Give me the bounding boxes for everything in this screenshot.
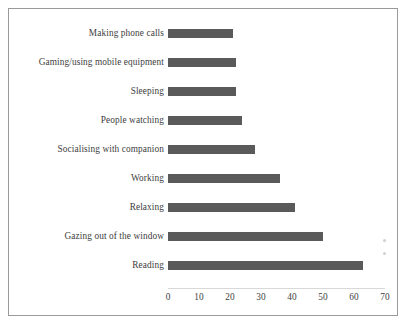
scan-speck: [383, 252, 386, 255]
x-tick-label: 70: [373, 292, 397, 302]
bar: [168, 203, 295, 212]
bar: [168, 145, 255, 154]
bar: [168, 87, 236, 96]
category-label: Socialising with companion: [58, 144, 164, 154]
category-label: Gazing out of the window: [65, 231, 164, 241]
category-label: Reading: [132, 260, 164, 270]
category-label: Gaming/using mobile equipment: [39, 57, 164, 67]
x-tick-label: 30: [249, 292, 273, 302]
bar: [168, 174, 280, 183]
x-tick-label: 20: [218, 292, 242, 302]
x-tick-label: 10: [187, 292, 211, 302]
bar: [168, 29, 233, 38]
category-label: Sleeping: [131, 86, 164, 96]
x-axis-line: [168, 288, 385, 289]
bar: [168, 58, 236, 67]
bar: [168, 261, 363, 270]
scan-speck: [383, 239, 386, 242]
chart-figure: Making phone calls Gaming/using mobile e…: [0, 0, 407, 324]
category-label: People watching: [101, 115, 164, 125]
bar: [168, 232, 323, 241]
category-label: Relaxing: [130, 202, 164, 212]
x-tick-label: 60: [342, 292, 366, 302]
bar: [168, 116, 242, 125]
plot-area: Making phone calls Gaming/using mobile e…: [0, 0, 407, 324]
x-tick-label: 0: [156, 292, 180, 302]
category-label: Working: [131, 173, 164, 183]
x-tick-label: 40: [280, 292, 304, 302]
x-tick-label: 50: [311, 292, 335, 302]
category-label: Making phone calls: [89, 28, 164, 38]
